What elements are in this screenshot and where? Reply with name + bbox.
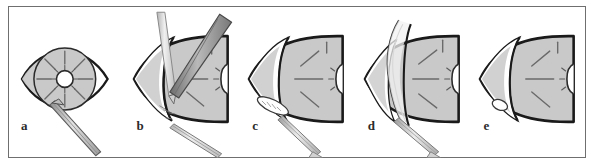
figure-root: a bbox=[0, 0, 596, 167]
panel-b-artwork bbox=[124, 6, 240, 158]
panel-strip: a bbox=[8, 6, 586, 158]
forceps-instrument bbox=[169, 124, 221, 158]
panel-label-c: c bbox=[252, 119, 258, 132]
panel-d-artwork bbox=[355, 6, 471, 158]
forceps-instrument bbox=[394, 118, 441, 158]
pupil-opening bbox=[56, 71, 73, 88]
panel-a-artwork bbox=[8, 6, 124, 158]
panel-label-d: d bbox=[368, 119, 375, 132]
panel-d: d bbox=[355, 6, 471, 158]
panel-label-a: a bbox=[21, 119, 28, 132]
panel-c: c bbox=[239, 6, 355, 158]
panel-label-b: b bbox=[137, 119, 144, 132]
panel-b: b bbox=[124, 6, 240, 158]
panel-c-artwork bbox=[239, 6, 355, 158]
panel-a: a bbox=[8, 6, 124, 158]
panel-e-artwork bbox=[470, 6, 586, 158]
panel-e: e bbox=[470, 6, 586, 158]
panel-label-e: e bbox=[483, 119, 489, 132]
